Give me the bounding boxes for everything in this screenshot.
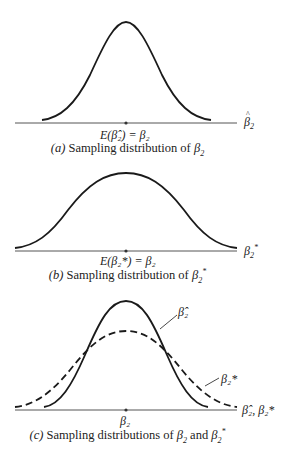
axis-label-c: β̂₂, β₂* [242,403,274,417]
caption-b-prefix: (b) [49,268,64,282]
caption-c-prefix: (c) [30,428,44,442]
caption-a-prefix: (a) [51,141,66,155]
curve-b-beta-star [15,173,237,248]
caption-c-subscript-2: 2 [218,436,222,445]
caption-a-text: Sampling distribution of [69,141,194,155]
mean-point-a [124,121,127,124]
center-label-a: E(β̂₂) = β₂ [100,128,150,142]
caption-b-superscript: * [202,267,206,276]
axis-label-a: β2 [244,115,254,129]
leader-line-beta-star [205,378,219,386]
curve-a-beta-hat [42,22,211,120]
panel-b [15,173,237,253]
caption-c-text: Sampling distributions of [47,428,177,442]
caption-b-subscript: 2 [198,276,202,285]
curve-c-dashed-beta-star [15,331,237,407]
mean-point-b [124,249,127,252]
caption-c-superscript-2: * [222,427,226,436]
subscript: 2 [250,122,254,131]
curve-label-dashed: β₂* [221,372,237,386]
caption-c-and: and [187,428,211,442]
beta-symbol: β [244,115,250,129]
caption-b-text: Sampling distribution of [67,268,192,282]
panel-c [15,301,237,412]
subscript: 2 [250,251,254,260]
panel-a [15,22,237,125]
caption-b: (b) Sampling distribution of β2* [0,268,255,283]
center-label-b: E(β₂*) = β₂ [100,254,156,268]
leader-line-beta-hat [160,315,177,329]
caption-a-subscript: 2 [200,149,204,158]
curve-label-solid: β̂₂ [178,305,188,319]
diagram-canvas [0,0,285,455]
axis-label-b: β2* [244,244,258,258]
mean-point-c [124,408,127,411]
superscript: * [254,243,258,252]
center-label-c: β₂ [120,414,130,428]
caption-c: (c) Sampling distributions of β2 and β2* [0,428,255,443]
caption-a: (a) Sampling distribution of β2 [0,141,255,156]
